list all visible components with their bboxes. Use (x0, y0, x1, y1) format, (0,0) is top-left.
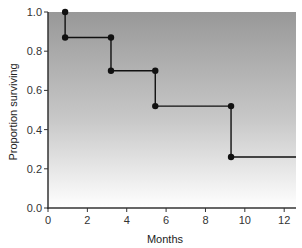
y-tick-label: 0.4 (27, 124, 42, 136)
data-point (62, 9, 68, 15)
data-point (152, 68, 158, 74)
y-tick-label: 0.6 (27, 84, 42, 96)
y-tick-label: 0.8 (27, 45, 42, 57)
data-point (108, 34, 114, 40)
y-tick-label: 0.2 (27, 163, 42, 175)
data-point (62, 34, 68, 40)
y-tick-label: 1.0 (27, 6, 42, 18)
y-axis: 0.00.20.40.60.81.0 (27, 6, 48, 214)
data-point (228, 103, 234, 109)
data-point (108, 68, 114, 74)
x-tick-label: 2 (84, 214, 90, 226)
x-axis: 024681012 (45, 208, 296, 226)
x-tick-label: 6 (163, 214, 169, 226)
survival-chart: 0.00.20.40.60.81.0 024681012 Months Prop… (0, 0, 302, 248)
x-tick-label: 8 (202, 214, 208, 226)
data-point (152, 103, 158, 109)
x-tick-label: 12 (278, 214, 290, 226)
x-tick-label: 0 (45, 214, 51, 226)
chart-canvas: 0.00.20.40.60.81.0 024681012 Months Prop… (0, 0, 302, 248)
y-axis-title: Proportion surviving (7, 63, 19, 160)
x-tick-label: 4 (124, 214, 130, 226)
x-tick-label: 10 (239, 214, 251, 226)
data-point (228, 154, 234, 160)
x-axis-title: Months (147, 233, 184, 245)
plot-area (48, 12, 296, 208)
y-tick-label: 0.0 (27, 202, 42, 214)
